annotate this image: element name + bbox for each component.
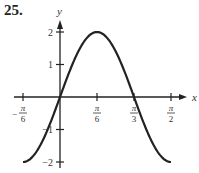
svg-text:π: π (21, 103, 26, 113)
x-tick-label: π2 (167, 103, 175, 124)
y-tick-label: 2 (48, 27, 53, 38)
x-axis-arrow-icon (179, 94, 187, 100)
svg-text:π: π (95, 103, 100, 113)
svg-text:6: 6 (21, 114, 26, 124)
y-axis-arrow-icon (57, 20, 63, 29)
svg-text:2: 2 (169, 114, 174, 124)
sine-graph: π6−π6π3π2 21−1−2 x y (0, 0, 199, 173)
x-axis (14, 94, 187, 100)
svg-text:π: π (169, 103, 174, 113)
x-tick-label: π6 (93, 103, 101, 124)
svg-text:−: − (12, 109, 17, 119)
svg-text:3: 3 (132, 114, 137, 124)
x-tick-label: π6− (12, 103, 27, 124)
y-axis-label: y (56, 5, 62, 17)
y-tick-label: 1 (48, 59, 53, 70)
y-tick-label: −2 (42, 157, 53, 168)
svg-text:6: 6 (95, 114, 100, 124)
x-axis-label: x (191, 91, 197, 103)
